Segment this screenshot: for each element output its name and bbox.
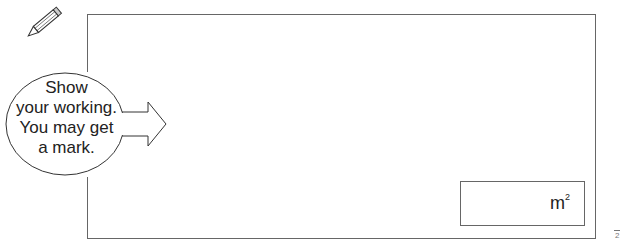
hint-line: your working. bbox=[4, 98, 129, 118]
hint-line: You may get bbox=[4, 118, 129, 138]
hint-line: Show bbox=[4, 78, 129, 98]
hint-text: Show your working. You may get a mark. bbox=[4, 78, 129, 158]
hint-line: a mark. bbox=[4, 138, 129, 158]
pencil-icon bbox=[26, 7, 62, 39]
answer-input-box[interactable]: m2 bbox=[460, 181, 585, 226]
unit-label: m2 bbox=[550, 193, 570, 214]
marks-indicator: 2 bbox=[614, 230, 620, 240]
